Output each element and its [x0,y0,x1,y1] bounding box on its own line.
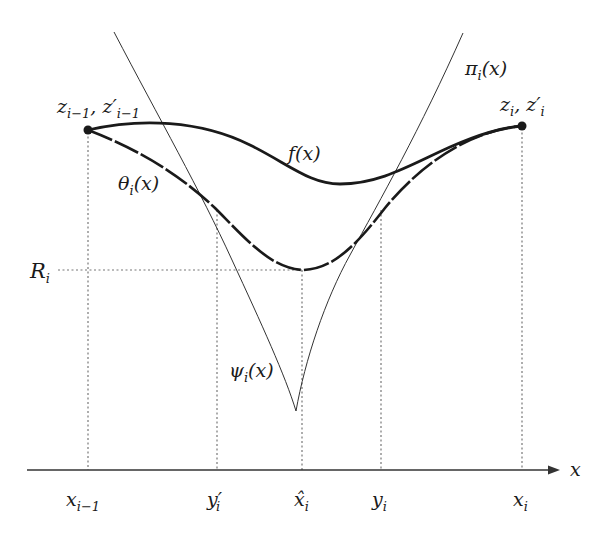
tick-x-i-minus-1: xi−1 [66,488,100,514]
tick-x-hat-i: x̂i [294,488,309,514]
left-endpoint-dot [84,126,93,135]
R-i-label: Ri [29,259,50,286]
right-endpoint-label: zi, z′i [499,93,545,119]
pi-curve [296,33,463,411]
piecewise-approximation-diagram: f(x) θi(x) πi(x) ψi(x) zi−1, z′i−1 zi, z… [0,0,606,539]
tick-y-prime-i: y′i [206,488,223,514]
tick-x-i: xi [513,488,528,514]
psi-label: ψi(x) [229,359,274,385]
pi-label: πi(x) [464,57,507,83]
left-endpoint-label: zi−1, z′i−1 [56,95,140,121]
x-axis-label: x [570,458,581,480]
theta-label: θi(x) [118,172,159,198]
axis-arrow-icon [548,466,560,475]
f-label: f(x) [286,142,321,164]
right-endpoint-dot [518,122,527,131]
x-axis [27,466,560,475]
psi-curve [114,32,296,411]
tick-y-i: yi [371,488,387,514]
